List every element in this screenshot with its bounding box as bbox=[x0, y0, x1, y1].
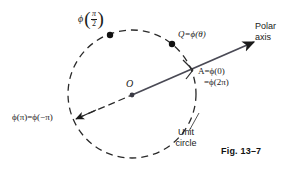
label-unit-circle: Unit circle bbox=[168, 127, 204, 149]
label-point-a-line2: =ϕ(2π) bbox=[198, 77, 229, 88]
open-paren: ( bbox=[84, 12, 90, 26]
label-phi-half-pi: ϕ ( π 2 ) bbox=[78, 10, 104, 28]
fraction-denominator: 2 bbox=[91, 20, 97, 28]
point-q bbox=[169, 41, 175, 47]
point-phi-half-pi bbox=[107, 32, 113, 38]
label-origin: O bbox=[126, 79, 133, 89]
figure-container: ϕ ( π 2 ) Q=ϕ(θ) Polar axis A=ϕ(0) =ϕ(2π… bbox=[0, 0, 291, 173]
point-a-marker bbox=[183, 60, 193, 70]
label-point-a-line1: A=ϕ(0) bbox=[198, 66, 229, 77]
polar-axis-solid-segment bbox=[132, 42, 254, 95]
fraction-pi-over-two: π 2 bbox=[91, 10, 97, 28]
label-polar-axis: Polar axis bbox=[255, 21, 289, 43]
polar-axis-left-arrow bbox=[76, 110, 96, 119]
label-point-a: A=ϕ(0) =ϕ(2π) bbox=[198, 66, 229, 88]
label-point-q: Q=ϕ(θ) bbox=[178, 29, 206, 39]
fraction-numerator: π bbox=[91, 10, 97, 18]
phi-symbol: ϕ bbox=[78, 14, 83, 24]
origin-point bbox=[130, 93, 135, 98]
close-paren: ) bbox=[98, 12, 104, 26]
figure-caption: Fig. 13–7 bbox=[221, 146, 261, 156]
label-phi-pi: ϕ(π)=ϕ(−π) bbox=[12, 112, 53, 122]
